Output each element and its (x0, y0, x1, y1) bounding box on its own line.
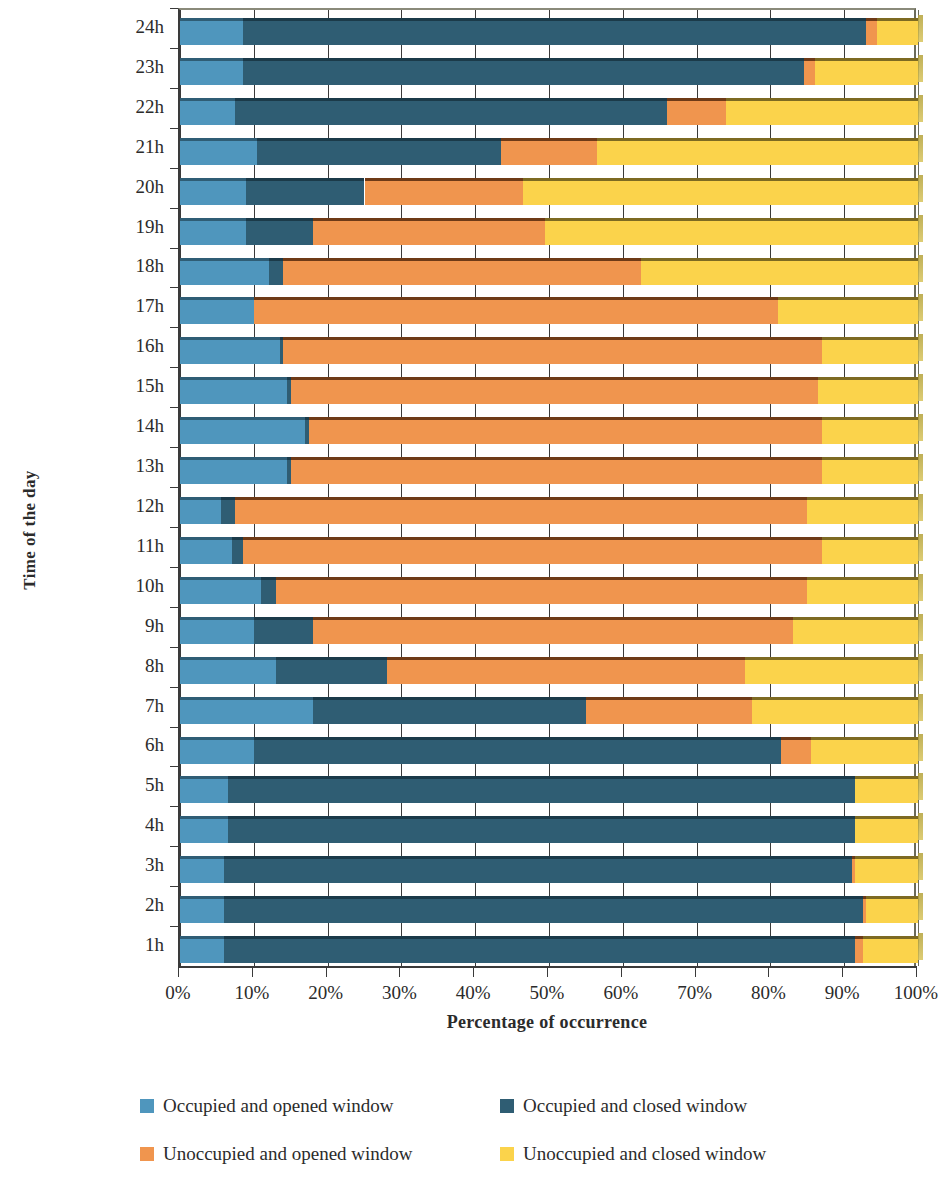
bar-end-cap (918, 694, 923, 721)
bar-segment (866, 18, 877, 45)
bar-rows (180, 10, 914, 966)
bar-segment (291, 377, 819, 404)
x-axis-tick (252, 966, 253, 977)
bar-segment (807, 497, 918, 524)
bar-segment (180, 18, 243, 45)
bar-segment (180, 896, 224, 923)
bar-row (180, 609, 914, 649)
bar-segment (261, 577, 276, 604)
bar-segment (365, 178, 524, 205)
bar-segment (822, 537, 918, 564)
y-axis-tick (170, 846, 178, 847)
y-axis-tick (170, 806, 178, 807)
bar-segment (224, 896, 862, 923)
bar-segment (283, 337, 822, 364)
y-axis-tick-label: 7h (88, 696, 164, 716)
y-axis-tick (170, 727, 178, 728)
legend-swatch-icon (140, 1099, 154, 1113)
x-axis-tick (178, 966, 179, 977)
y-axis-tick (170, 327, 178, 328)
bar-segment (313, 697, 586, 724)
y-axis-tick-label: 20h (88, 177, 164, 197)
bar-segment (224, 936, 855, 963)
bar-segment (180, 697, 313, 724)
bar-row (180, 449, 914, 489)
bar-segment (243, 18, 867, 45)
legend-label: Unoccupied and closed window (523, 1143, 766, 1165)
bar-row (180, 768, 914, 808)
y-axis-tick (170, 447, 178, 448)
x-axis-tick-label: 60% (586, 982, 656, 1004)
bar-segment (235, 497, 807, 524)
y-axis-tick-label: 2h (88, 895, 164, 915)
legend-label: Occupied and opened window (163, 1095, 394, 1117)
bar-row (180, 928, 914, 968)
x-axis-tick-label: 100% (881, 982, 943, 1004)
bar-end-cap (918, 773, 923, 800)
bar-segment (276, 657, 387, 684)
bar-segment (254, 737, 782, 764)
bar-segment (778, 297, 918, 324)
y-axis-tick (170, 48, 178, 49)
y-axis-tick-label: 13h (88, 456, 164, 476)
stacked-bar (180, 417, 914, 441)
bar-row (180, 90, 914, 130)
plot-area (178, 8, 916, 966)
bar-end-cap (918, 813, 923, 840)
bar-segment (180, 577, 261, 604)
bar-row (180, 649, 914, 689)
bar-row (180, 808, 914, 848)
stacked-bar (180, 577, 914, 601)
stacked-bar (180, 98, 914, 122)
bar-segment (822, 417, 918, 444)
x-axis-tick (399, 966, 400, 977)
bar-end-cap (918, 334, 923, 361)
legend-swatch-icon (500, 1099, 514, 1113)
bar-segment (180, 417, 305, 444)
y-axis-tick (170, 926, 178, 927)
x-axis-tick-label: 90% (807, 982, 877, 1004)
bar-end-cap (918, 15, 923, 42)
y-axis-tick (170, 886, 178, 887)
y-axis-tick (170, 766, 178, 767)
x-axis-tick (326, 966, 327, 977)
bar-segment (667, 98, 726, 125)
bar-segment (180, 377, 287, 404)
bar-segment (501, 138, 597, 165)
stacked-bar (180, 816, 914, 840)
bar-segment (246, 178, 364, 205)
bar-segment (180, 936, 224, 963)
bar-segment (180, 737, 254, 764)
y-axis-tick-label: 24h (88, 17, 164, 37)
stacked-bar (180, 617, 914, 641)
legend-label: Unoccupied and opened window (163, 1143, 413, 1165)
stacked-bar (180, 18, 914, 42)
bar-end-cap (918, 294, 923, 321)
bar-end-cap (918, 614, 923, 641)
bar-end-cap (918, 933, 923, 960)
bar-row (180, 489, 914, 529)
legend-item: Unoccupied and opened window (140, 1143, 500, 1165)
bar-end-cap (918, 95, 923, 122)
legend-item: Unoccupied and closed window (500, 1143, 860, 1165)
bar-row (180, 729, 914, 769)
bar-segment (221, 497, 236, 524)
y-axis-tick (170, 287, 178, 288)
bar-row (180, 329, 914, 369)
stacked-bar (180, 936, 914, 960)
x-axis-tick (473, 966, 474, 977)
stacked-bar (180, 737, 914, 761)
bar-end-cap (918, 55, 923, 82)
y-axis-tick-label: 12h (88, 496, 164, 516)
stacked-bar (180, 697, 914, 721)
bar-segment (291, 457, 822, 484)
bar-segment (313, 218, 545, 245)
bar-segment (243, 58, 804, 85)
bar-end-cap (918, 175, 923, 202)
x-axis-tick (842, 966, 843, 977)
y-axis-tick-label: 18h (88, 256, 164, 276)
y-axis-tick-label: 6h (88, 735, 164, 755)
stacked-bar (180, 297, 914, 321)
bar-end-cap (918, 574, 923, 601)
y-axis-tick-label: 22h (88, 97, 164, 117)
